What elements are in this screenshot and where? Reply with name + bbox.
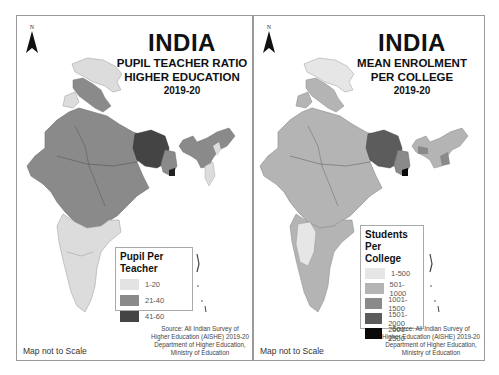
source-line: Department of Higher Education, <box>145 341 255 349</box>
legend-label: 1-20 <box>145 280 160 289</box>
source-line: Source: All Indian Survey of <box>145 325 255 333</box>
legend-item: 41-60 <box>120 309 188 323</box>
legend-swatch <box>365 268 385 279</box>
legend-swatch <box>365 283 384 294</box>
legend-title-line-2: College <box>365 253 419 265</box>
source-line: Ministry of Education <box>376 349 486 357</box>
legend-item: 1501-2000 <box>365 312 419 325</box>
scale-note: Map not to Scale <box>23 346 87 356</box>
legend-swatch <box>120 311 139 322</box>
legend-students-per-college: Students Per College 1-500 501-1000 1001… <box>360 225 424 329</box>
source-line: Source: All Indian Survey of <box>376 325 486 333</box>
source-note: Source: All Indian Survey of Higher Educ… <box>145 325 255 357</box>
legend-swatch <box>120 279 139 290</box>
source-note: Source: All Indian Survey of Higher Educ… <box>376 325 486 357</box>
legend-title-line-1: Students Per <box>365 229 419 253</box>
legend-item: 1-20 <box>120 277 188 291</box>
legend-label: 1-500 <box>391 269 410 278</box>
map-panel-pupil-teacher-ratio: N INDIA PUPIL TEACHER RATIO HIGHER EDUCA… <box>16 15 253 361</box>
legend-item: 501-1000 <box>365 282 419 295</box>
legend-label: 41-60 <box>145 312 164 321</box>
map-panel-mean-enrolment: N INDIA MEAN ENROLMENT PER COLLEGE 2019-… <box>253 15 485 361</box>
source-line: Higher Education (AISHE) 2019-20 <box>376 333 486 341</box>
legend-swatch <box>365 298 382 309</box>
legend-swatch <box>365 313 382 324</box>
source-line: Department of Higher Education, <box>376 341 486 349</box>
legend-title: Pupil Per Teacher <box>120 251 188 275</box>
legend-item: 1-500 <box>365 267 419 280</box>
scale-note: Map not to Scale <box>260 346 324 356</box>
legend-item: 21-40 <box>120 293 188 307</box>
legend-item: 1001-1500 <box>365 297 419 310</box>
legend-pupil-per-teacher: Pupil Per Teacher 1-20 21-40 41-60 <box>115 247 193 311</box>
source-line: Higher Education (AISHE) 2019-20 <box>145 333 255 341</box>
legend-label: 21-40 <box>145 296 164 305</box>
legend-swatch <box>120 295 139 306</box>
source-line: Ministry of Education <box>145 349 255 357</box>
